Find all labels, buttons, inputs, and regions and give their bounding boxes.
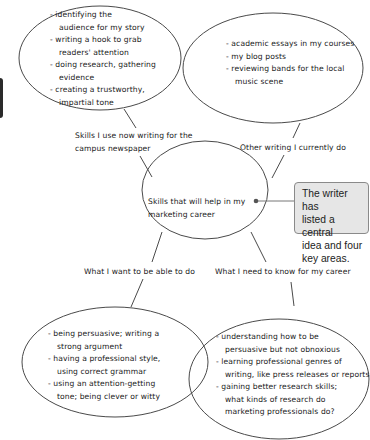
- list-item-cont: marketing professionals do?: [216, 406, 370, 419]
- list-item: - gaining better research skills;: [216, 381, 370, 394]
- list-item: - doing research, gathering: [50, 59, 156, 72]
- bubble-other-writing: - academic essays in my courses - my blo…: [226, 38, 354, 88]
- list-item-cont: evidence: [50, 72, 156, 85]
- list-item: - learning professional genres of: [216, 356, 370, 369]
- list-item: - creating a trustworthy,: [50, 84, 156, 97]
- list-item: - identifying the: [50, 9, 156, 22]
- list-item-cont: readers' attention: [50, 47, 156, 60]
- list-item-cont: impartial tone: [50, 97, 156, 110]
- central-idea: Skills that will help in my marketing ca…: [148, 196, 245, 221]
- list-item: - being persuasive; writing a: [48, 328, 160, 341]
- list-item: - using an attention-getting: [48, 378, 160, 391]
- list-item-cont: audience for my story: [50, 22, 156, 35]
- bubble-campus-newspaper-skills: - identifying the audience for my story …: [50, 9, 156, 109]
- list-item: - understanding how to be: [216, 331, 370, 344]
- bubble-want-to-do: - being persuasive; writing a strong arg…: [48, 328, 160, 403]
- list-item: - my blog posts: [226, 51, 354, 64]
- list-item-cont: writing, like press releases or reports: [216, 369, 370, 382]
- branch-label-other-writing: Other writing I currently do: [240, 142, 346, 155]
- list-item-cont: what kinds of research do: [216, 394, 370, 407]
- list-item-cont: persuasive but not obnoxious: [216, 344, 370, 357]
- list-item-cont: using correct grammar: [48, 366, 160, 379]
- bubble-need-to-know: - understanding how to be persuasive but…: [216, 331, 370, 419]
- list-item-cont: tone; being clever or witty: [48, 391, 160, 404]
- list-item-cont: music scene: [226, 76, 354, 89]
- list-item: - academic essays in my courses: [226, 38, 354, 51]
- branch-label-want-to-do: What I want to be able to do: [84, 266, 195, 279]
- list-item: - reviewing bands for the local: [226, 63, 354, 76]
- annotation-callout: The writer has listed a central idea and…: [294, 182, 369, 234]
- list-item-cont: strong argument: [48, 341, 160, 354]
- branch-label-need-to-know: What I need to know for my career: [215, 266, 351, 279]
- list-item: - having a professional style,: [48, 353, 160, 366]
- bubble-outline-center: [142, 141, 268, 239]
- list-item: - writing a hook to grab: [50, 34, 156, 47]
- branch-label-campus-newspaper: Skills I use now writing for the campus …: [75, 130, 193, 155]
